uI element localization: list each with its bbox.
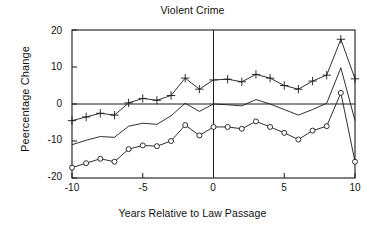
data-point-circle	[183, 123, 188, 128]
data-point-circle	[253, 119, 258, 124]
plot-area	[0, 0, 385, 233]
data-point-circle	[324, 124, 329, 129]
data-point-circle	[126, 147, 131, 152]
data-point-circle	[353, 159, 358, 164]
data-point-circle	[296, 137, 301, 142]
data-point-circle	[338, 90, 343, 95]
data-point-circle	[84, 161, 89, 166]
data-point-circle	[310, 128, 315, 133]
data-point-circle	[98, 156, 103, 161]
data-point-circle	[169, 139, 174, 144]
chart-figure: Violent Crime Peercentage Change Years R…	[0, 0, 385, 233]
data-point-circle	[211, 124, 216, 129]
data-point-circle	[268, 124, 273, 129]
data-point-circle	[282, 130, 287, 135]
data-point-circle	[154, 144, 159, 149]
data-point-circle	[112, 159, 117, 164]
data-point-circle	[197, 133, 202, 138]
data-point-circle	[225, 124, 230, 129]
data-point-circle	[70, 165, 75, 170]
data-point-circle	[140, 143, 145, 148]
data-point-circle	[239, 126, 244, 131]
